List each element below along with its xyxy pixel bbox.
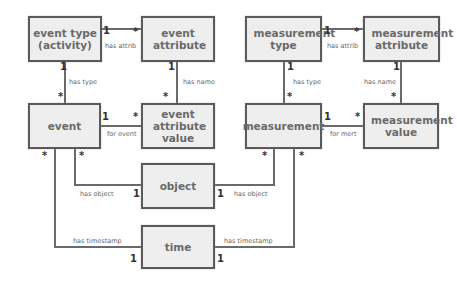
edge-m-object-v [273,148,275,186]
cardinality-one: 1 [60,62,67,72]
entity-label: measurement value [371,114,431,138]
entity-event-attribute-value: event attribute value [141,103,215,149]
entity-event: event [28,103,101,149]
relation-label: has type [293,78,321,86]
edge-m-attribute-value [400,61,402,104]
cardinality-many: * [287,92,292,102]
entity-event-attribute: event attribute [141,16,215,62]
edge-event-value [100,125,142,127]
relation-label: has name [183,78,215,86]
entity-label: event attribute value [153,108,203,144]
cardinality-one: 1 [133,189,140,199]
relation-label: has object [80,190,114,198]
cardinality-many: * [355,112,360,122]
relation-label: has attrib [105,42,136,50]
edge-m-type-measurement [283,61,285,104]
cardinality-many: * [354,27,359,37]
cardinality-one: 1 [324,26,331,36]
entity-measurement-type: measurement type [245,16,322,62]
cardinality-many: * [42,151,47,161]
entity-label: event [48,120,82,132]
entity-label: event type (activity) [30,27,100,51]
edge-event-attribute-value [176,61,178,104]
cardinality-one: 1 [393,62,400,72]
edge-m-object-h [214,184,275,186]
cardinality-one: 1 [168,62,175,72]
cardinality-one: 1 [324,112,331,122]
entity-label: measurement [243,120,325,132]
edge-event-time-h [54,246,142,248]
relation-label: has type [69,78,97,86]
entity-measurement: measurement [245,103,322,149]
entity-event-type: event type (activity) [28,16,102,62]
edge-event-time-v [54,148,56,248]
relation-label: has object [234,190,268,198]
relation-label: has attrib [327,42,358,50]
entity-label: object [160,180,197,192]
entity-measurement-value: measurement value [363,103,439,149]
cardinality-many: * [133,112,138,122]
relation-label: has timestamp [73,237,122,245]
edge-measurement-value [321,125,364,127]
relation-label: for event [107,130,137,138]
entity-measurement-attribute: measurement attribute [363,16,440,62]
cardinality-many: * [133,27,138,37]
cardinality-one: 1 [287,62,294,72]
entity-label: measurement type [254,27,314,51]
entity-label: measurement attribute [372,27,432,51]
edge-event-object-h [74,184,142,186]
cardinality-many: * [299,151,304,161]
cardinality-one: 1 [102,112,109,122]
entity-time: time [141,225,215,269]
cardinality-many: * [58,92,63,102]
cardinality-one: 1 [217,254,224,264]
entity-object: object [141,163,215,209]
relation-label: has timestamp [224,237,273,245]
cardinality-one: 1 [217,189,224,199]
relation-label: has name [364,78,396,86]
edge-m-time-v [293,148,295,248]
entity-label: time [165,241,192,253]
entity-label: event attribute [153,27,203,51]
edge-event-object-v [74,148,76,186]
relation-label: for mert [330,130,357,138]
cardinality-many: * [391,92,396,102]
cardinality-many: * [163,92,168,102]
edge-m-time-h [214,246,295,248]
cardinality-one: 1 [103,26,110,36]
cardinality-many: * [262,151,267,161]
cardinality-many: * [79,151,84,161]
cardinality-one: 1 [130,254,137,264]
